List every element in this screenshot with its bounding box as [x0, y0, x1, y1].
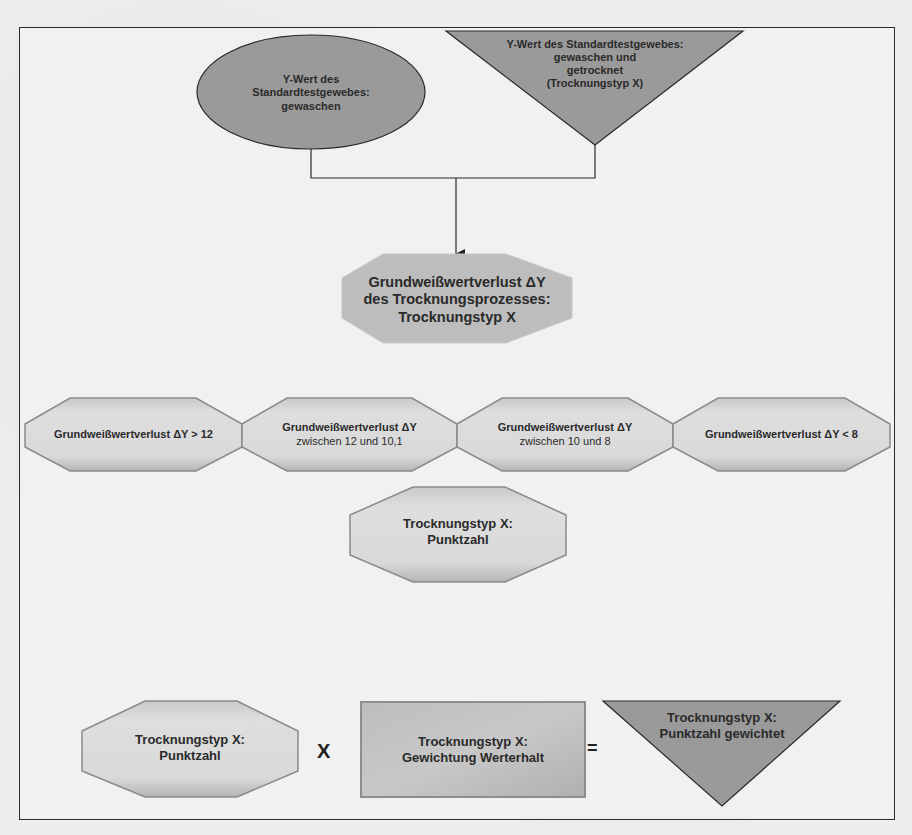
formula-operand1-label: Trocknungstyp X: Punktzahl — [82, 726, 298, 770]
category-12-10: Grundweißwertverlust ΔY zwischen 12 und … — [242, 398, 457, 471]
score-label: Trocknungstyp X: Punktzahl — [350, 510, 566, 554]
category-gt12: Grundweißwertverlust ΔY > 12 — [25, 398, 242, 471]
category-lt8: Grundweißwertverlust ΔY < 8 — [673, 398, 890, 471]
formula-multiply-operator: X — [317, 740, 330, 763]
category-10-8: Grundweißwertverlust ΔY zwischen 10 und … — [457, 398, 673, 471]
category-10-8-line2: zwischen 10 und 8 — [519, 435, 610, 448]
category-lt8-line1: Grundweißwertverlust ΔY < 8 — [705, 428, 858, 441]
connector-merge — [311, 145, 595, 178]
category-12-10-line1: Grundweißwertverlust ΔY — [282, 421, 416, 434]
loss-label-line2: des Trocknungsprozesses: — [364, 291, 551, 308]
loss-label-line3: Trocknungstyp X — [398, 309, 516, 326]
category-12-10-line2: zwischen 12 und 10,1 — [296, 435, 402, 448]
formula-operand2-label: Trocknungstyp X: Gewichtung Werterhalt — [361, 728, 585, 772]
input-washed-label: Y-Wert des Standardtestgewebes: gewasche… — [210, 58, 412, 128]
category-gt12-line1: Grundweißwertverlust ΔY > 12 — [54, 428, 213, 441]
formula-equals-operator: = — [587, 738, 598, 759]
loss-label: Grundweißwertverlust ΔY des Trocknungspr… — [342, 264, 572, 336]
category-10-8-line1: Grundweißwertverlust ΔY — [498, 421, 632, 434]
input-washed-dried-label: Y-Wert des Standardtestgewebes: gewasche… — [490, 30, 700, 98]
formula-result-label: Trocknungstyp X: Punktzahl gewichtet — [630, 706, 814, 746]
loss-label-line1: Grundweißwertverlust ΔY — [368, 274, 545, 291]
